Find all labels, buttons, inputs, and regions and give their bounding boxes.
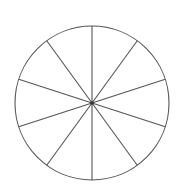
spoke-line (47, 41, 92, 103)
spoke-line (19, 79, 92, 103)
spoke-line (92, 103, 165, 127)
spoke-line (19, 103, 92, 127)
spoke-line (92, 41, 137, 103)
spoke-line (92, 79, 165, 103)
divided-circle-diagram (0, 0, 180, 184)
spoke-line (92, 103, 137, 165)
center-dot (90, 101, 94, 105)
spoke-line (47, 103, 92, 165)
